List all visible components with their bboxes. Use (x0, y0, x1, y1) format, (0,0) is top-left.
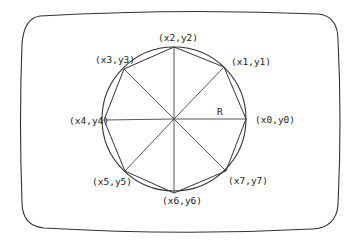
vertex-label-3: (x3,y3) (95, 54, 135, 65)
vertex-label-7: (x7,y7) (228, 175, 268, 186)
vertex-label-0: (x0,y0) (255, 114, 295, 125)
octagon-diagram: R (x0,y0)(x1,y1)(x2,y2)(x3,y3)(x4,y4)(x5… (0, 0, 354, 242)
spoke-7 (174, 119, 226, 171)
vertex-label-2: (x2,y2) (158, 32, 198, 43)
vertex-label-4: (x4,y4) (69, 115, 109, 126)
spoke-3 (124, 69, 174, 119)
vertex-label-6: (x6,y6) (162, 195, 202, 206)
vertex-label-1: (x1,y1) (231, 56, 271, 67)
spoke-5 (125, 119, 174, 171)
vertex-label-5: (x5,y5) (92, 176, 132, 187)
radius-label: R (217, 106, 223, 117)
spoke-4 (104, 119, 174, 120)
